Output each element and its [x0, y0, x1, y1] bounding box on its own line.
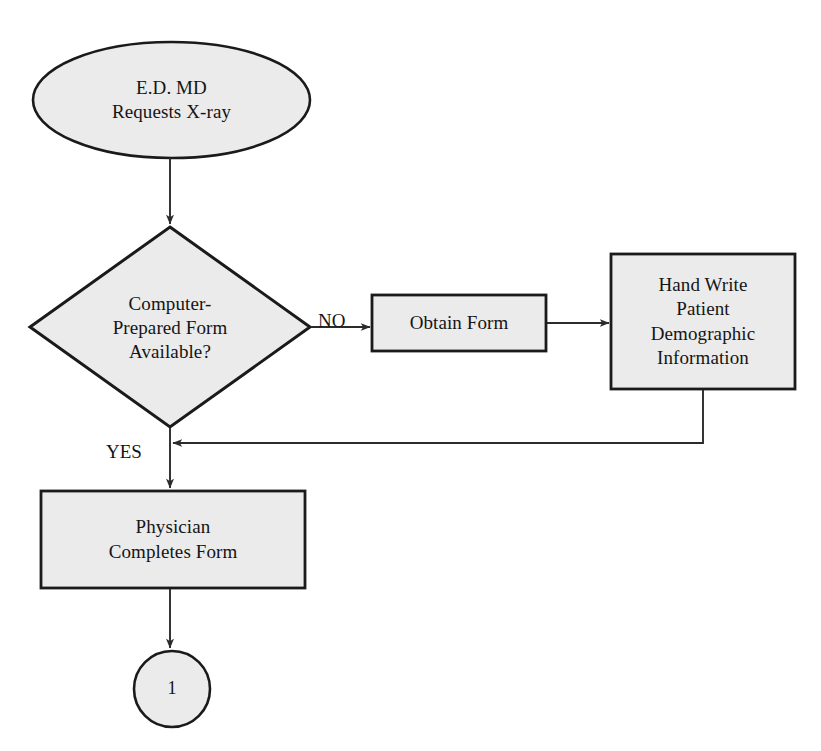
node-physician-shape[interactable]: [41, 491, 305, 588]
node-hand-write-shape[interactable]: [611, 254, 795, 389]
edge-hand-write-return: [173, 390, 703, 443]
flowchart-canvas: E.D. MD Requests X-ray Computer- Prepare…: [0, 0, 821, 751]
edge-label-yes: YES: [106, 441, 142, 464]
node-decision-shape[interactable]: [30, 227, 310, 427]
flowchart-graphics: [0, 0, 821, 751]
node-obtain-form-shape[interactable]: [372, 295, 546, 351]
node-start-shape[interactable]: [33, 42, 310, 158]
node-connector-shape[interactable]: [134, 651, 210, 727]
edge-label-no: NO: [318, 310, 345, 333]
